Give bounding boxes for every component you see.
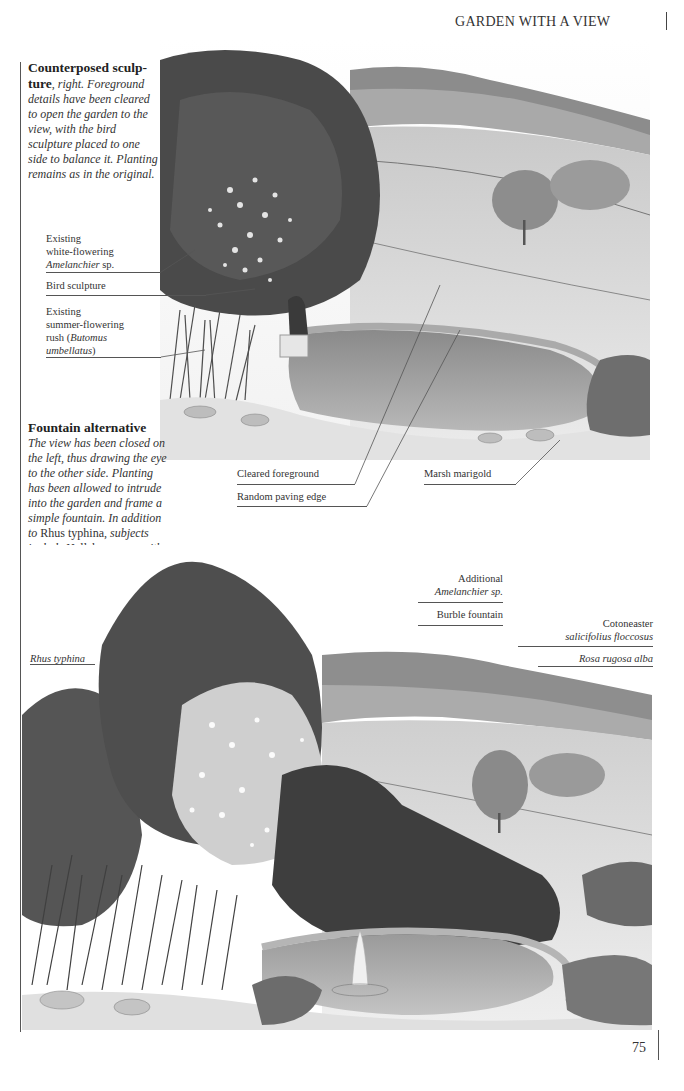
leader-line-rosa [538, 666, 653, 667]
leader-line-cotoneaster [518, 646, 653, 647]
leader-line-additional [418, 602, 503, 603]
label-additional-amelanchier: Additional Amelanchier sp. [418, 572, 503, 598]
leader-line-rhus [30, 664, 95, 665]
label-cotoneaster: Cotoneaster salicifolius floccosus [518, 617, 653, 643]
caption-title: Fountain alternative [28, 420, 146, 435]
label-rosa-rugosa-alba: Rosa rugosa alba [538, 652, 653, 665]
label-burble-fountain: Burble fountain [418, 608, 503, 621]
leader-line-burble [418, 625, 503, 626]
